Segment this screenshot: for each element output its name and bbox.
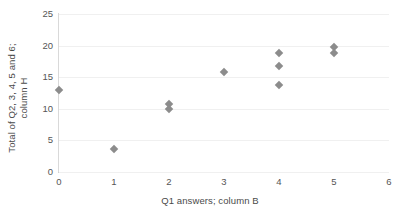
data-point (330, 49, 338, 57)
gridline-y (59, 140, 389, 141)
x-tick-label: 4 (268, 176, 290, 187)
y-axis-title-line1: Total of Q2, 3, 4, 5 and 6; (6, 43, 17, 152)
data-point (220, 68, 228, 76)
x-tick-label: 6 (378, 176, 397, 187)
y-tick-label: 15 (31, 71, 53, 82)
gridline-y (59, 172, 389, 173)
data-point (275, 49, 283, 57)
data-point (275, 81, 283, 89)
y-axis-title-line2: column H (18, 78, 29, 119)
data-point (275, 62, 283, 70)
gridline-y (59, 14, 389, 15)
y-tick-label: 10 (31, 103, 53, 114)
gridline-y (59, 46, 389, 47)
x-axis-title: Q1 answers; column B (60, 195, 360, 206)
y-tick-label: 20 (31, 40, 53, 51)
x-tick-label: 0 (48, 176, 70, 187)
x-tick-label: 1 (103, 176, 125, 187)
y-tick-label: 25 (31, 8, 53, 19)
data-point (110, 144, 118, 152)
plot-area (59, 14, 389, 172)
y-tick-label: 5 (31, 134, 53, 145)
x-tick-label: 3 (213, 176, 235, 187)
x-tick-label: 5 (323, 176, 345, 187)
x-tick-label: 2 (158, 176, 180, 187)
scatter-chart: Total of Q2, 3, 4, 5 and 6;column H 0510… (0, 0, 397, 216)
gridline-y (59, 109, 389, 110)
data-point (165, 105, 173, 113)
gridline-y (59, 77, 389, 78)
data-point (55, 86, 63, 94)
